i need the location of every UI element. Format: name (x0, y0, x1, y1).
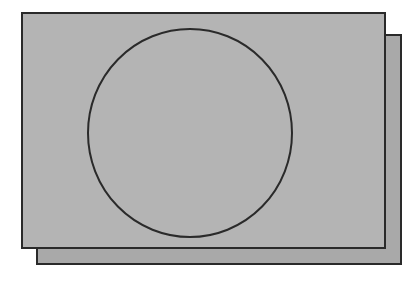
diagram-canvas (0, 0, 418, 281)
front-sheet (22, 13, 385, 248)
